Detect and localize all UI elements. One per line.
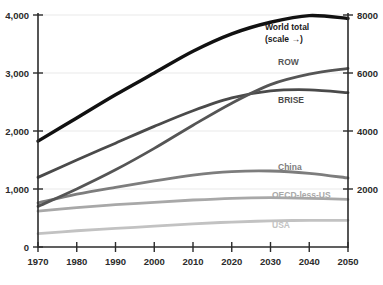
chart-container: 4,000 3,000 2,000 1,000 0 8000 6000 4000…: [0, 0, 383, 285]
x-label-2050: 2050: [337, 256, 358, 267]
x-label-1990: 1990: [105, 256, 126, 267]
label-world-total-scale: (scale →): [265, 34, 303, 44]
label-brise: BRISE: [278, 95, 304, 105]
label-world-total: World total: [265, 22, 309, 32]
y2-label-8000: 8000: [357, 10, 378, 21]
y-label-1000: 1,000: [5, 184, 29, 195]
x-label-2010: 2010: [182, 256, 203, 267]
x-label-2020: 2020: [221, 256, 242, 267]
y2-label-2000: 2000: [357, 184, 378, 195]
y2-label-4000: 4000: [357, 126, 378, 137]
label-usa: USA: [272, 220, 290, 230]
label-china: China: [278, 162, 302, 172]
y2-label-6000: 6000: [357, 68, 378, 79]
label-row: ROW: [278, 57, 300, 67]
chart-background: [0, 0, 383, 285]
y-label-2000: 2,000: [5, 126, 29, 137]
x-label-1980: 1980: [66, 256, 87, 267]
y-label-0: 0: [24, 242, 29, 253]
x-label-2030: 2030: [260, 256, 281, 267]
line-chart-svg: 4,000 3,000 2,000 1,000 0 8000 6000 4000…: [0, 0, 383, 285]
y-label-3000: 3,000: [5, 68, 29, 79]
x-label-2040: 2040: [299, 256, 320, 267]
label-oecd-less-us: OECD-less-US: [272, 190, 331, 200]
x-label-2000: 2000: [144, 256, 165, 267]
x-label-1970: 1970: [27, 256, 48, 267]
y-label-4000: 4,000: [5, 10, 29, 21]
